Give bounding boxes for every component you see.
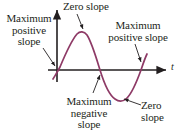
label-line-1: Zero [141,100,179,112]
pointer-max-positive-right [135,44,141,62]
label-line-1: Maximum [97,20,179,32]
pointer-zero-slope-top [77,14,83,29]
label-line-1: Maximum [52,96,126,108]
label-line-1: Maximum [1,13,57,25]
label-max-positive-slope-right: Maximum positive slope [97,20,179,43]
label-zero-slope-top: Zero slope [63,1,123,13]
pointer-max-positive-left [43,48,55,66]
pointer-max-negative [93,75,100,93]
label-zero-slope-bottom: Zero slope [141,100,179,123]
label-line-2: slope [141,112,179,124]
label-line-2: positive slope [97,32,179,44]
label-line-1: Zero slope [63,1,123,13]
pointer-zero-slope-bottom [124,99,141,105]
label-max-positive-slope-left: Maximum positive slope [1,13,57,48]
label-max-negative-slope: Maximum negative slope [52,96,126,131]
sine-slope-figure: t Maximum positive slope Zero slope Maxi… [0,0,179,138]
t-axis-label: t [171,62,174,72]
label-line-3: slope [1,36,57,48]
label-line-3: slope [52,119,126,131]
